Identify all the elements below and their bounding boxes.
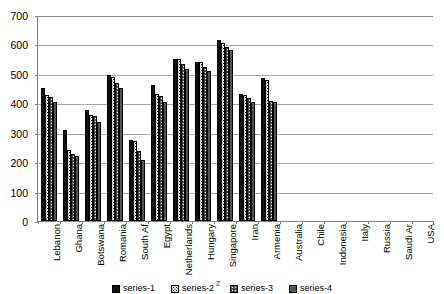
y-tick-mark	[35, 75, 38, 76]
y-tick-label: 100	[0, 187, 33, 199]
x-tick-label: USA	[426, 224, 436, 244]
y-tick-label: 300	[0, 128, 33, 140]
bar-group	[85, 16, 101, 221]
bar-group	[217, 16, 233, 221]
x-tick-label: Botswana	[96, 224, 106, 266]
bar-group	[371, 16, 387, 221]
bar-group	[327, 16, 343, 221]
y-tick-mark	[35, 134, 38, 135]
bar	[229, 50, 233, 221]
bar	[75, 156, 79, 221]
y-tick-label: 700	[0, 10, 33, 22]
bar-group	[349, 16, 365, 221]
plot-area	[37, 16, 433, 222]
bar-group	[305, 16, 321, 221]
x-tick-label: Italy	[360, 224, 370, 241]
x-tick-label: Indonesia	[338, 224, 348, 265]
legend-item: series-1	[112, 284, 155, 293]
x-tick-label: Australia	[294, 224, 304, 261]
chart-legend: series-1series-2series-3series-4	[0, 283, 444, 294]
bar-group	[107, 16, 123, 221]
legend-label: series-3	[241, 284, 273, 293]
bar-group	[261, 16, 277, 221]
bar-group	[195, 16, 211, 221]
y-axis-labels: 0100200300400500600700	[0, 16, 33, 222]
x-tick-label: Ghana	[74, 224, 84, 253]
y-tick-label: 500	[0, 69, 33, 81]
bar-group	[415, 16, 431, 221]
y-tick-mark	[35, 163, 38, 164]
x-tick-label: Egypt	[162, 224, 172, 248]
bar	[207, 71, 211, 221]
bar	[53, 102, 57, 221]
bar	[273, 102, 277, 221]
legend-label: series-2	[182, 284, 214, 293]
y-tick-mark	[35, 45, 38, 46]
y-tick-mark	[35, 104, 38, 105]
y-tick-label: 200	[0, 157, 33, 169]
bar-group	[239, 16, 255, 221]
legend-swatch	[289, 285, 297, 293]
bar	[119, 88, 123, 221]
bar-chart: 0100200300400500600700 LebanonGhanaBotsw…	[0, 0, 444, 294]
x-tick-label: Singapore	[228, 224, 238, 267]
legend-item: series-2	[171, 284, 214, 293]
bar-group	[393, 16, 409, 221]
legend-item: series-3	[230, 284, 273, 293]
legend-swatch	[171, 285, 179, 293]
legend-label: series-4	[300, 284, 332, 293]
legend-swatch	[112, 285, 120, 293]
bar-group	[129, 16, 145, 221]
y-tick-mark	[35, 193, 38, 194]
bar	[251, 102, 255, 221]
x-tick-label: Iran	[250, 224, 260, 240]
bar-group	[41, 16, 57, 221]
x-tick-label: Lebanon	[52, 224, 62, 261]
legend-item: series-4	[289, 284, 332, 293]
x-tick-label: Armenia	[272, 224, 282, 259]
bar	[141, 160, 145, 221]
x-tick-label: Saudi Ar	[404, 224, 414, 260]
y-tick-label: 0	[0, 216, 33, 228]
bar-group	[173, 16, 189, 221]
x-axis-labels: LebanonGhanaBotswanaRomaniaSouth AfEgypt…	[37, 224, 433, 282]
bar	[97, 122, 101, 221]
x-tick-label: Chile	[316, 224, 326, 246]
bar-group	[63, 16, 79, 221]
bar	[185, 69, 189, 221]
legend-label: series-1	[123, 284, 155, 293]
bar-group	[283, 16, 299, 221]
y-tick-label: 400	[0, 98, 33, 110]
x-tick-label: Netherlands	[184, 224, 194, 275]
x-tick-label: Romania	[118, 224, 128, 262]
bar-group	[151, 16, 167, 221]
y-tick-label: 600	[0, 39, 33, 51]
legend-swatch	[230, 285, 238, 293]
x-tick-label: Russia	[382, 224, 392, 253]
x-tick-label: Hungary	[206, 224, 216, 260]
x-tick-label: South Af	[140, 224, 150, 260]
y-tick-mark	[35, 16, 38, 17]
bar	[163, 102, 167, 221]
